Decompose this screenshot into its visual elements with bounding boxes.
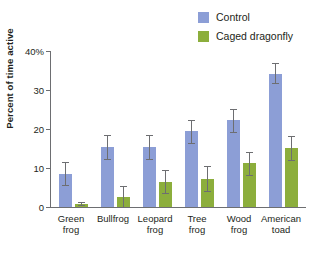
error-bar-cap-upper bbox=[288, 136, 295, 137]
plot-area: 010203040% GreenfrogBullfrogLeopardfrogT… bbox=[50, 51, 302, 207]
x-tick-label-line: Wood bbox=[218, 213, 260, 224]
bar-group bbox=[59, 51, 88, 207]
x-tick-label: Leopardfrog bbox=[134, 213, 176, 235]
y-tick-mark bbox=[46, 207, 50, 208]
error-bar-cap-lower bbox=[188, 143, 195, 144]
x-tick-label: Americantoad bbox=[260, 213, 302, 235]
error-bar-cap-lower bbox=[120, 207, 127, 208]
error-bar-stem bbox=[233, 109, 234, 132]
error-bar-cap-upper bbox=[62, 162, 69, 163]
error-bar-cap-upper bbox=[246, 152, 253, 153]
chart-legend: Control Caged dragonfly bbox=[198, 10, 318, 48]
y-tick-label: 40% bbox=[25, 46, 44, 57]
error-bar-stem bbox=[291, 136, 292, 160]
y-tick-mark bbox=[46, 51, 50, 52]
x-tick-label-line: Leopard bbox=[134, 213, 176, 224]
y-tick-mark bbox=[46, 90, 50, 91]
error-bar-cap-upper bbox=[230, 109, 237, 110]
legend-label-caged-dragonfly: Caged dragonfly bbox=[216, 31, 293, 42]
x-tick-label-line: frog bbox=[218, 224, 260, 235]
bar-group bbox=[269, 51, 298, 207]
x-tick-label-line: Green bbox=[50, 213, 92, 224]
x-tick-label-line: frog bbox=[176, 224, 218, 235]
legend-label-control: Control bbox=[216, 12, 250, 23]
error-bar-cap-lower bbox=[230, 132, 237, 133]
legend-item-control: Control bbox=[198, 10, 318, 25]
error-bar-cap-lower bbox=[146, 159, 153, 160]
error-bar-cap-upper bbox=[78, 202, 85, 203]
y-tick-mark bbox=[46, 168, 50, 169]
error-bar-cap-lower bbox=[62, 185, 69, 186]
legend-swatch-caged-dragonfly bbox=[198, 31, 209, 42]
x-tick-label-line: Tree bbox=[176, 213, 218, 224]
error-bar-cap-lower bbox=[162, 193, 169, 194]
error-bar-stem bbox=[123, 186, 124, 207]
x-tick-label-line: American bbox=[260, 213, 302, 224]
error-bar-cap-upper bbox=[188, 120, 195, 121]
error-bar-cap-lower bbox=[272, 83, 279, 84]
bar-group bbox=[227, 51, 256, 207]
bar-group bbox=[143, 51, 172, 207]
legend-item-caged-dragonfly: Caged dragonfly bbox=[198, 29, 318, 44]
y-tick-mark bbox=[46, 129, 50, 130]
bar-control bbox=[269, 74, 282, 207]
error-bar-stem bbox=[275, 63, 276, 83]
error-bar-stem bbox=[149, 135, 150, 158]
error-bar-stem bbox=[107, 135, 108, 158]
y-axis-title-text: Percent of time active bbox=[4, 28, 15, 128]
error-bar-cap-upper bbox=[162, 170, 169, 171]
error-bar-stem bbox=[207, 166, 208, 190]
error-bar-cap-upper bbox=[272, 63, 279, 64]
y-tick-label: 0 bbox=[39, 202, 44, 213]
x-tick-label: Treefrog bbox=[176, 213, 218, 235]
legend-swatch-control bbox=[198, 12, 209, 23]
y-tick-label: 10 bbox=[33, 163, 44, 174]
error-bar-stem bbox=[165, 170, 166, 193]
bar-chart-figure: Control Caged dragonfly Percent of time … bbox=[0, 0, 320, 266]
x-tick-label-line: Bullfrog bbox=[92, 213, 134, 224]
y-tick-label: 30 bbox=[33, 85, 44, 96]
error-bar-cap-lower bbox=[288, 160, 295, 161]
x-tick-label-line: toad bbox=[260, 224, 302, 235]
bar-control bbox=[227, 120, 240, 207]
error-bar-stem bbox=[65, 162, 66, 185]
error-bar-cap-upper bbox=[146, 135, 153, 136]
y-axis-title: Percent of time active bbox=[2, 0, 16, 156]
y-axis-line bbox=[50, 51, 51, 207]
error-bar-cap-upper bbox=[104, 135, 111, 136]
x-axis-line bbox=[50, 207, 306, 208]
error-bar-cap-upper bbox=[204, 166, 211, 167]
error-bar-cap-lower bbox=[246, 175, 253, 176]
y-tick-label: 20 bbox=[33, 124, 44, 135]
error-bar-stem bbox=[191, 120, 192, 143]
error-bar-cap-lower bbox=[78, 205, 85, 206]
x-tick-label-line: frog bbox=[50, 224, 92, 235]
bar-group bbox=[101, 51, 130, 207]
x-tick-label: Bullfrog bbox=[92, 213, 134, 224]
error-bar-cap-upper bbox=[120, 186, 127, 187]
bar-group bbox=[185, 51, 214, 207]
error-bar-stem bbox=[249, 152, 250, 175]
error-bar-cap-lower bbox=[204, 191, 211, 192]
x-tick-label-line: frog bbox=[134, 224, 176, 235]
x-tick-label: Woodfrog bbox=[218, 213, 260, 235]
error-bar-cap-lower bbox=[104, 159, 111, 160]
x-tick-label: Greenfrog bbox=[50, 213, 92, 235]
